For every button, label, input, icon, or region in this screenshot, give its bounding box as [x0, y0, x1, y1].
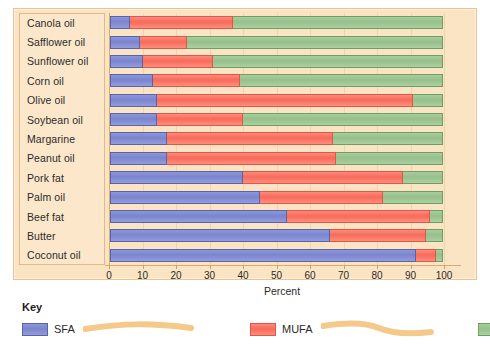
bar-segment-pufa	[336, 152, 443, 165]
bar-segment-pufa	[213, 55, 443, 68]
bar-segment-mufa	[157, 113, 244, 126]
bar-segment-mufa	[143, 55, 213, 68]
category-label: Soybean oil	[19, 110, 105, 129]
legend-label: MUFA	[282, 323, 313, 335]
category-label: Corn oil	[19, 71, 105, 90]
category-label: Butter	[19, 226, 105, 245]
bar-segment-mufa	[157, 94, 413, 107]
x-axis-title-text: Percent	[264, 285, 300, 297]
chart-row	[105, 110, 460, 129]
chart-row	[105, 52, 460, 71]
bar-segment-sfa	[110, 171, 243, 184]
bar-segment-mufa	[416, 249, 436, 262]
legend-item-sfa[interactable]: SFA	[22, 318, 208, 340]
chart-row	[105, 226, 460, 245]
bar-segment-mufa	[167, 132, 334, 145]
category-label: Safflower oil	[19, 32, 105, 51]
x-tick-label: 70	[338, 270, 349, 281]
x-tick-label: 80	[371, 270, 382, 281]
x-tick-label: 50	[271, 270, 282, 281]
category-label: Sunflower oil	[19, 52, 105, 71]
x-tick-label: 100	[436, 270, 453, 281]
bar-segment-sfa	[110, 210, 287, 223]
chart-row	[105, 32, 460, 51]
legend-item-mufa[interactable]: MUFA	[250, 318, 446, 340]
x-tick-label: 90	[405, 270, 416, 281]
stacked-bar	[109, 112, 444, 127]
bar-segment-sfa	[110, 36, 140, 49]
chart-row	[105, 91, 460, 110]
category-label: Palm oil	[19, 187, 105, 206]
chart-row	[105, 246, 460, 265]
bar-segment-pufa	[240, 74, 443, 87]
x-tick	[109, 265, 110, 269]
bar-segment-mufa	[330, 229, 427, 242]
stacked-bar	[109, 151, 444, 166]
category-label: Pork fat	[19, 168, 105, 187]
category-label: Peanut oil	[19, 149, 105, 168]
bar-segment-mufa	[287, 210, 430, 223]
category-label: Coconut oil	[19, 246, 105, 265]
bar-segment-sfa	[110, 74, 153, 87]
stacked-bar	[109, 54, 444, 69]
one-step-line-icon	[321, 320, 446, 340]
x-tick	[310, 265, 311, 269]
legend-item-pufa[interactable]: PUFA	[478, 318, 490, 340]
stacked-bar	[109, 170, 444, 185]
bar-segment-pufa	[403, 171, 443, 184]
bar-segment-pufa	[383, 191, 443, 204]
x-tick-label: 20	[170, 270, 181, 281]
category-label: Canola oil	[19, 13, 105, 32]
category-label: Beef fat	[19, 207, 105, 226]
x-tick	[377, 265, 378, 269]
stacked-bar	[109, 93, 444, 108]
chart-row	[105, 187, 460, 206]
legend-label: SFA	[54, 323, 75, 335]
legend-swatch-mufa	[250, 323, 276, 336]
bar-segment-sfa	[110, 191, 260, 204]
bar-segment-mufa	[243, 171, 403, 184]
x-tick	[444, 265, 445, 269]
x-tick-label: 40	[237, 270, 248, 281]
stacked-bar	[109, 190, 444, 205]
stacked-bar	[109, 209, 444, 224]
bar-segment-sfa	[110, 249, 416, 262]
chart-row	[105, 71, 460, 90]
x-tick	[277, 265, 278, 269]
straight-line-icon	[83, 320, 208, 340]
bar-segment-mufa	[130, 16, 233, 29]
chart-row	[105, 149, 460, 168]
x-tick	[243, 265, 244, 269]
bar-segment-mufa	[260, 191, 383, 204]
x-tick-label: 30	[204, 270, 215, 281]
bar-segment-sfa	[110, 152, 167, 165]
legend-swatch-sfa	[22, 323, 48, 336]
stacked-bar	[109, 248, 444, 263]
bar-segment-pufa	[333, 132, 443, 145]
bar-segment-mufa	[140, 36, 187, 49]
bar-segment-pufa	[233, 16, 443, 29]
chart-row	[105, 129, 460, 148]
chart-row	[105, 207, 460, 226]
bar-segment-sfa	[110, 16, 130, 29]
bar-segment-pufa	[426, 229, 443, 242]
bar-segment-pufa	[413, 94, 443, 107]
bar-segment-pufa	[187, 36, 443, 49]
x-tick	[143, 265, 144, 269]
bar-segment-mufa	[167, 152, 337, 165]
bar-segment-pufa	[430, 210, 443, 223]
chart-row	[105, 168, 460, 187]
stacked-bar	[109, 73, 444, 88]
x-tick	[411, 265, 412, 269]
bar-segment-sfa	[110, 94, 157, 107]
x-tick	[344, 265, 345, 269]
plot-area	[105, 13, 460, 265]
bar-segment-sfa	[110, 113, 157, 126]
x-tick-label: 60	[304, 270, 315, 281]
stacked-bar	[109, 15, 444, 30]
x-axis-title: Percent	[0, 285, 490, 297]
stacked-bar	[109, 35, 444, 50]
bar-segment-pufa	[243, 113, 443, 126]
legend-title: Key	[22, 301, 42, 313]
chart-row	[105, 13, 460, 32]
